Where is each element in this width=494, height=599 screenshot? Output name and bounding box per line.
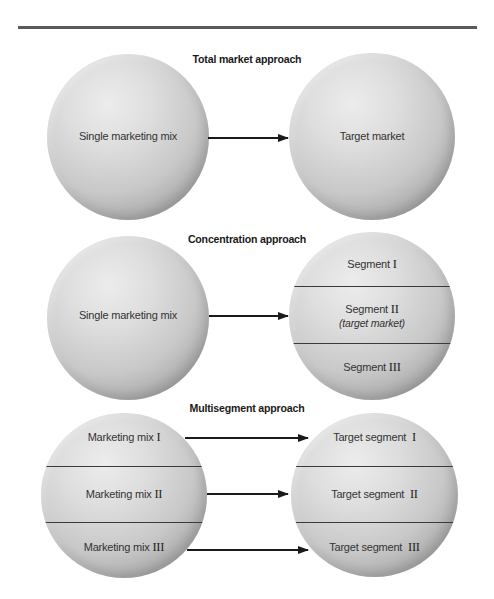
header-rule <box>18 26 477 29</box>
segment-divider <box>291 522 458 523</box>
segment-label: Marketing mix I <box>41 430 207 445</box>
segment-label: Marketing mix III <box>41 540 207 555</box>
sphere-target-segments: Target segment I Target segment II Targe… <box>291 413 458 577</box>
segment-divider <box>289 343 455 344</box>
segment-label: Segment III <box>289 360 455 375</box>
arrow-connector <box>209 315 288 317</box>
segment-divider <box>41 522 207 523</box>
arrow-connector-2 <box>207 493 288 495</box>
sphere-marketing-mixes: Marketing mix I Marketing mix II Marketi… <box>41 413 207 578</box>
panel-title-multisegment: Multisegment approach <box>20 402 474 414</box>
segment-label: Target segment II <box>291 487 458 502</box>
sphere-label: Single marketing mix <box>47 309 209 321</box>
arrow-connector-1 <box>185 437 308 439</box>
arrow-connector <box>208 137 288 139</box>
sphere-target-market: Target market <box>289 53 455 220</box>
segment-label: Target segment I <box>291 430 458 445</box>
sphere-single-marketing-mix: Single marketing mix <box>47 236 209 400</box>
segment-divider <box>289 286 455 287</box>
sphere-segmented-market: Segment I Segment II (target market) Seg… <box>289 232 455 400</box>
segment-label-target: Segment II (target market) <box>289 302 455 329</box>
sphere-label: Target market <box>289 130 455 142</box>
segment-label: Target segment III <box>291 540 458 555</box>
segment-divider <box>41 466 207 467</box>
sphere-single-marketing-mix: Single marketing mix <box>47 54 209 220</box>
segment-label: Marketing mix II <box>41 487 207 502</box>
arrow-connector-3 <box>187 549 308 551</box>
segment-divider <box>291 466 458 467</box>
sphere-label: Single marketing mix <box>47 130 209 142</box>
segment-label: Segment I <box>289 257 455 272</box>
